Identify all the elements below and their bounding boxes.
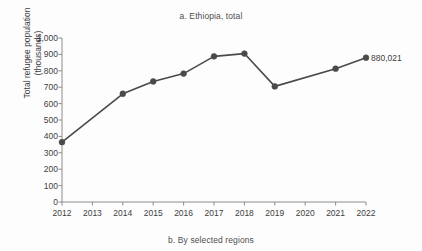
panel-caption: b. By selected regions [0, 235, 422, 245]
x-axis-tick-label: 2021 [326, 208, 345, 218]
plot-area: 01002003004005006007008009001,000 201220… [0, 0, 422, 251]
x-axis-tick-labels: 2012201320142015201620172018201920202021… [0, 0, 422, 251]
x-axis-tick-label: 2019 [265, 208, 284, 218]
x-axis-tick-label: 2015 [144, 208, 163, 218]
chart-figure: a. Ethiopia, total Total refugee populat… [0, 0, 422, 251]
x-axis-tick-label: 2014 [113, 208, 132, 218]
data-value-label: 880,021 [371, 53, 402, 63]
x-axis-tick-label: 2018 [235, 208, 254, 218]
x-axis-tick-label: 2022 [357, 208, 376, 218]
x-axis-tick-label: 2012 [53, 208, 72, 218]
x-axis-tick-label: 2016 [174, 208, 193, 218]
x-axis-tick-label: 2017 [205, 208, 224, 218]
x-axis-tick-label: 2013 [83, 208, 102, 218]
x-axis-tick-label: 2020 [296, 208, 315, 218]
